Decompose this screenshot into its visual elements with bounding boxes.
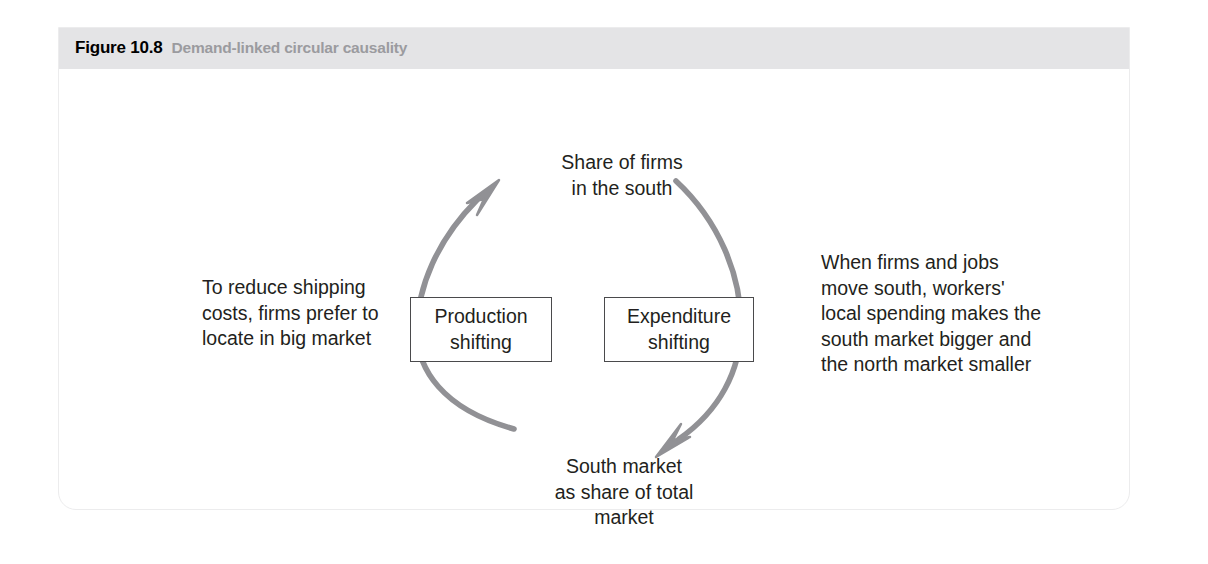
figure-caption: Figure 10.8Demand-linked circular causal… [75,38,407,58]
node-south-market-share: South market as share of total market [499,454,749,531]
figure-number: Figure 10.8 [75,38,163,57]
figure-caption-bar: Figure 10.8Demand-linked circular causal… [59,28,1129,69]
left-arrowhead-icon [467,180,499,215]
node-share-of-firms: Share of firms in the south [517,150,727,201]
figure-card: Figure 10.8Demand-linked circular causal… [58,27,1130,510]
diagram-canvas: Share of firms in the south South market… [59,69,1129,509]
right-arrowhead-icon [656,424,690,457]
annotation-shipping-costs: To reduce shipping costs, firms prefer t… [202,275,420,352]
annotation-local-spending: When firms and jobs move south, workers'… [821,250,1073,378]
figure-title: Demand-linked circular causality [172,39,408,56]
box-production-shifting: Production shifting [410,297,552,362]
box-expenditure-shifting: Expenditure shifting [604,297,754,362]
